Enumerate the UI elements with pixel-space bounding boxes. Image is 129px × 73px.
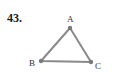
vertex-label-a: A [67,14,74,24]
vertex-point-c [89,60,93,64]
triangle-figure: ABC [0,0,129,73]
vertex-point-b [39,59,43,63]
vertex-point-a [68,26,72,30]
vertex-label-b: B [29,58,35,68]
triangle-shape [41,28,91,62]
vertex-label-c: C [95,61,101,71]
